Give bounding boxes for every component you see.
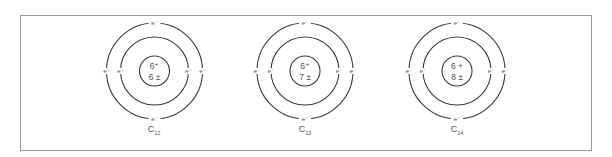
- isotope-label-c14: C14: [451, 124, 464, 136]
- electron-label: e⁻: [185, 68, 191, 74]
- electron-label: e⁻: [406, 68, 412, 74]
- atom-carbon-12: 6⁺ 6 ± e⁻ e⁻ e⁻ e⁻ e⁻ e⁻: [103, 20, 207, 122]
- nucleus-neutrons: 8 ±: [451, 72, 463, 82]
- electron-label: e⁻: [199, 68, 205, 74]
- electron-label: e⁻: [268, 68, 274, 74]
- electron-label: e⁻: [117, 68, 123, 74]
- nucleus-neutrons: 6 ±: [149, 72, 161, 82]
- mass-number: 12: [154, 130, 160, 136]
- isotope-label-c13: C13: [299, 124, 312, 136]
- electron-label: e⁻: [454, 116, 460, 122]
- electron-label: e⁻: [420, 68, 426, 74]
- nucleus-protons: 6 +: [451, 61, 463, 71]
- electron-label: e⁻: [454, 20, 460, 26]
- electron-label: e⁻: [350, 68, 356, 74]
- atom-carbon-13: 6⁺ 7 ± e⁻ e⁻ e⁻ e⁻ e⁻ e⁻: [253, 20, 357, 122]
- mass-number: 14: [457, 130, 463, 136]
- electron-label: e⁻: [488, 68, 494, 74]
- mass-number: 13: [305, 130, 311, 136]
- atom-carbon-14: 6 + 8 ± e⁻ e⁻ e⁻ e⁻ e⁻ e⁻: [405, 20, 509, 122]
- nucleus-protons: 6⁺: [300, 61, 310, 71]
- nucleus-neutrons: 7 ±: [299, 72, 311, 82]
- electron-label: e⁻: [336, 68, 342, 74]
- electron-label: e⁻: [502, 68, 508, 74]
- electron-label: e⁻: [103, 68, 109, 74]
- nucleus-protons: 6⁺: [150, 61, 160, 71]
- electron-label: e⁻: [254, 68, 260, 74]
- electron-label: e⁻: [151, 20, 157, 26]
- electron-label: e⁻: [151, 116, 157, 122]
- isotope-label-c12: C12: [148, 124, 161, 136]
- electron-label: e⁻: [302, 20, 308, 26]
- electron-label: e⁻: [302, 116, 308, 122]
